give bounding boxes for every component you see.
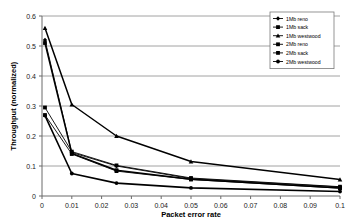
y-tick-labels: 00.10.20.30.40.50.6	[26, 13, 36, 200]
data-point-marker	[276, 42, 280, 46]
data-point-marker	[43, 106, 47, 110]
x-tick-label: 0.07	[244, 202, 258, 209]
legend: 1Mb reno1Mb sack1Mb westwood2Mb reno2Mb …	[270, 12, 334, 69]
legend-label: 2Mb westwood	[286, 59, 321, 65]
x-tick-label: 0.06	[214, 202, 228, 209]
data-point-marker	[115, 169, 119, 173]
y-tick-label: 0.5	[26, 43, 36, 50]
x-tick-label: 0.1	[335, 202, 345, 209]
y-tick-label: 0.4	[26, 73, 36, 80]
y-tick-label: 0.1	[26, 163, 36, 170]
y-tick-label: 0.2	[26, 133, 36, 140]
data-point-marker	[276, 51, 280, 55]
y-axis-title: Throughput (normalized)	[9, 61, 18, 150]
data-point-marker	[43, 41, 47, 45]
x-tick-label: 0.08	[274, 202, 288, 209]
x-tick-label: 0.03	[125, 202, 139, 209]
data-point-marker	[276, 25, 280, 29]
x-tick-label: 0.04	[154, 202, 168, 209]
legend-label: 1Mb sack	[286, 24, 309, 30]
data-point-marker	[189, 178, 193, 182]
data-point-marker	[338, 186, 342, 190]
y-tick-label: 0.6	[26, 13, 36, 20]
throughput-vs-packet-error-rate-chart: 00.010.020.030.040.050.060.070.080.090.1…	[0, 0, 356, 224]
data-point-marker	[189, 186, 193, 190]
data-point-marker	[276, 60, 280, 64]
data-point-marker	[70, 172, 74, 176]
data-point-marker	[338, 190, 342, 194]
series-2mb-sack	[43, 113, 342, 190]
legend-label: 2Mb sack	[286, 50, 309, 56]
legend-label: 2Mb reno	[286, 41, 308, 47]
y-tick-label: 0	[32, 193, 36, 200]
data-point-marker	[115, 181, 119, 185]
x-tick-labels: 00.010.020.030.040.050.060.070.080.090.1	[40, 202, 345, 209]
x-tick-label: 0.02	[95, 202, 109, 209]
data-point-marker	[43, 114, 47, 118]
data-point-marker	[70, 152, 74, 156]
legend-label: 1Mb reno	[286, 16, 308, 22]
x-tick-label: 0.05	[184, 202, 198, 209]
data-point-marker	[43, 26, 48, 30]
legend-label: 1Mb westwood	[286, 33, 321, 39]
data-point-marker	[115, 164, 119, 168]
series-2mb-westwood	[43, 114, 342, 194]
x-tick-label: 0.01	[65, 202, 79, 209]
x-tick-label: 0	[40, 202, 44, 209]
x-axis-title: Packet error rate	[161, 210, 221, 219]
y-tick-label: 0.3	[26, 103, 36, 110]
chart-page: 00.010.020.030.040.050.060.070.080.090.1…	[0, 0, 356, 224]
data-point-marker	[70, 102, 75, 106]
x-tick-label: 0.09	[303, 202, 317, 209]
